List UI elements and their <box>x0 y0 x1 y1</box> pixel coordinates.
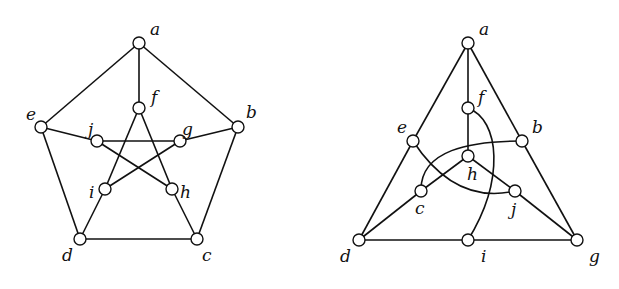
right-node-label-a: a <box>479 19 489 39</box>
left-edge-e-a <box>41 43 139 127</box>
left-node-label-c: c <box>202 245 212 265</box>
left-node-e <box>35 121 47 133</box>
left-node-f <box>133 102 145 114</box>
right-node-label-g: g <box>589 246 600 266</box>
left-node-b <box>232 121 244 133</box>
left-node-label-j: j <box>84 119 94 139</box>
left-node-label-e: e <box>26 104 36 124</box>
right-node-g <box>571 234 583 246</box>
right-node-e <box>407 135 419 147</box>
left-node-label-d: d <box>62 245 73 265</box>
right-node-j <box>509 185 521 197</box>
right-node-label-i: i <box>481 246 486 266</box>
right-edge-b-g <box>522 141 577 240</box>
left-edge-a-b <box>139 43 238 127</box>
right-node-label-e: e <box>397 117 407 137</box>
left-node-c <box>191 233 203 245</box>
right-node-label-f: f <box>476 87 487 107</box>
left-graph-pentagon: abcdefghij <box>26 19 257 265</box>
right-edge-a-b <box>468 43 522 141</box>
right-nodes: abcdefghij <box>340 19 600 266</box>
left-node-i <box>99 183 111 195</box>
left-node-h <box>166 183 178 195</box>
right-node-label-d: d <box>340 246 351 266</box>
right-node-label-c: c <box>415 198 425 218</box>
right-node-d <box>353 234 365 246</box>
right-graph-triangle: abcdefghij <box>340 19 600 266</box>
left-node-label-h: h <box>180 182 191 202</box>
right-node-label-h: h <box>467 164 478 184</box>
right-edge-e-d <box>359 141 413 240</box>
left-edge-d-e <box>41 127 80 239</box>
left-nodes: abcdefghij <box>26 19 257 265</box>
right-node-b <box>516 135 528 147</box>
left-node-label-g: g <box>182 119 193 139</box>
right-node-h <box>462 150 474 162</box>
left-node-label-f: f <box>149 87 160 107</box>
left-node-label-b: b <box>246 102 257 122</box>
right-node-c <box>415 185 427 197</box>
right-edge-c-d <box>359 191 421 240</box>
petersen-graph-figure: abcdefghij abcdefghij <box>0 0 619 289</box>
left-node-label-i: i <box>89 182 94 202</box>
left-edges <box>41 43 238 239</box>
right-node-i <box>462 234 474 246</box>
right-node-f <box>462 102 474 114</box>
right-node-a <box>462 37 474 49</box>
left-edge-b-c <box>197 127 238 239</box>
right-edges <box>359 43 577 240</box>
right-node-label-b: b <box>532 117 543 137</box>
left-node-d <box>74 233 86 245</box>
left-node-a <box>133 37 145 49</box>
right-node-label-j: j <box>507 199 517 219</box>
left-node-label-a: a <box>150 19 160 39</box>
right-edge-j-g <box>515 191 577 240</box>
right-edge-a-e <box>413 43 468 141</box>
